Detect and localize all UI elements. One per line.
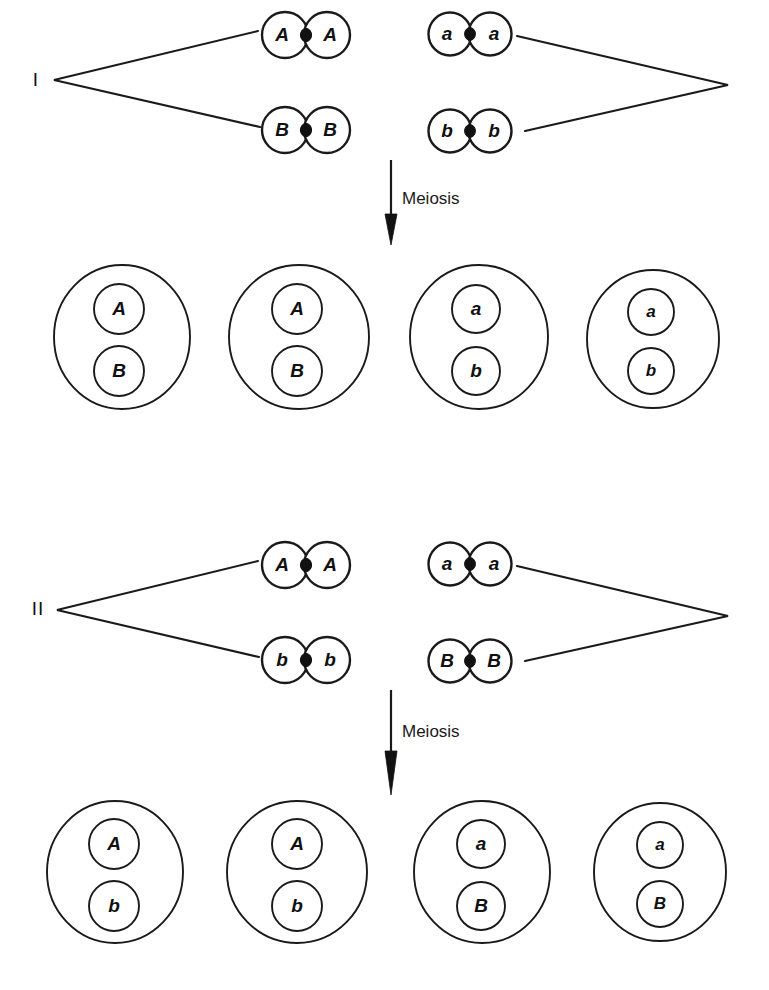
connector-left-panel-II bbox=[57, 561, 259, 657]
allele-label-bottom: b bbox=[291, 895, 303, 916]
allele-label-right: A bbox=[322, 24, 337, 45]
panel-II: II A A a a b b bbox=[32, 542, 728, 943]
chromosome-pair-AA-panel-II: A A bbox=[262, 542, 350, 588]
allele-label-bottom: B bbox=[474, 895, 488, 916]
allele-label-bottom: b bbox=[646, 361, 656, 380]
centromere-icon bbox=[465, 655, 476, 668]
allele-label-right: b bbox=[324, 649, 336, 670]
allele-label-top: A bbox=[111, 298, 126, 319]
gamete-cell-4-panel-II: a B bbox=[594, 803, 726, 941]
panel-label-II: II bbox=[32, 598, 45, 619]
gamete-cell-2-panel-II: A b bbox=[227, 801, 367, 943]
meiosis-arrow-panel-II: Meiosis bbox=[385, 690, 460, 795]
meiosis-label: Meiosis bbox=[402, 189, 460, 208]
chromosome-pair-AA-panel-I: A A bbox=[262, 12, 350, 58]
figure-canvas: I A A a a B B bbox=[0, 0, 769, 990]
allele-label-bottom: b bbox=[470, 360, 482, 381]
allele-label-left: b bbox=[441, 120, 453, 141]
arrow-head-icon bbox=[385, 214, 397, 245]
allele-label-right: b bbox=[488, 120, 500, 141]
gamete-cell-4-panel-I: a b bbox=[587, 270, 719, 408]
gamete-cell-3-panel-I: a b bbox=[410, 265, 548, 409]
allele-label-right: B bbox=[323, 119, 337, 140]
chromosome-pair-aa-panel-II: a a bbox=[429, 543, 512, 586]
allele-label-left: A bbox=[274, 554, 289, 575]
chromosome-pair-BB-panel-I: B B bbox=[262, 107, 350, 153]
centromere-icon bbox=[465, 28, 476, 41]
gamete-cell-2-panel-I: A B bbox=[229, 265, 369, 409]
allele-label-left: A bbox=[274, 24, 289, 45]
allele-label-bottom: B bbox=[654, 894, 666, 913]
allele-label-top: A bbox=[289, 833, 304, 854]
connector-right-panel-II bbox=[517, 566, 728, 661]
connector-right-panel-I bbox=[517, 36, 728, 131]
allele-label-top: a bbox=[471, 298, 482, 319]
chromosome-pair-bb-panel-I: b b bbox=[429, 110, 512, 153]
allele-label-right: B bbox=[487, 650, 501, 671]
panel-label-I: I bbox=[33, 69, 39, 90]
centromere-icon bbox=[300, 123, 311, 136]
allele-label-top: a bbox=[655, 835, 664, 854]
centromere-icon bbox=[300, 28, 311, 41]
meiosis-arrow-panel-I: Meiosis bbox=[385, 160, 460, 245]
centromere-icon bbox=[465, 558, 476, 571]
allele-label-left: B bbox=[440, 650, 454, 671]
arrow-head-icon bbox=[385, 751, 397, 795]
allele-label-bottom: B bbox=[290, 360, 304, 381]
allele-label-right: a bbox=[489, 553, 500, 574]
centromere-icon bbox=[300, 653, 311, 666]
allele-label-top: A bbox=[289, 298, 304, 319]
allele-label-left: B bbox=[275, 119, 289, 140]
allele-label-bottom: B bbox=[112, 360, 126, 381]
allele-label-right: a bbox=[489, 23, 500, 44]
gamete-cell-1-panel-II: A b bbox=[47, 801, 183, 943]
gamete-cell-1-panel-I: A B bbox=[54, 265, 190, 409]
allele-label-left: a bbox=[442, 23, 453, 44]
chromosome-pair-aa-panel-I: a a bbox=[429, 13, 512, 56]
centromere-icon bbox=[300, 558, 311, 571]
panel-I: I A A a a B B bbox=[33, 12, 728, 409]
allele-label-top: A bbox=[106, 833, 121, 854]
allele-label-left: a bbox=[442, 553, 453, 574]
chromosome-pair-bb-panel-II: b b bbox=[262, 637, 350, 683]
centromere-icon bbox=[465, 125, 476, 138]
meiosis-figure: I A A a a B B bbox=[0, 0, 769, 990]
gamete-cell-3-panel-II: a B bbox=[414, 801, 550, 943]
connector-left-panel-I bbox=[54, 31, 260, 127]
allele-label-bottom: b bbox=[108, 895, 120, 916]
allele-label-top: a bbox=[646, 302, 655, 321]
allele-label-left: b bbox=[276, 649, 288, 670]
allele-label-top: a bbox=[476, 833, 487, 854]
chromosome-pair-BB-panel-II: B B bbox=[429, 640, 512, 683]
meiosis-label: Meiosis bbox=[402, 722, 460, 741]
allele-label-right: A bbox=[322, 554, 337, 575]
